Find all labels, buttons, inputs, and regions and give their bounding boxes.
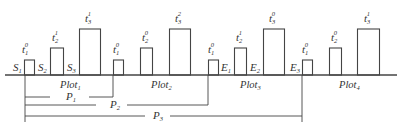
state-label: S2 xyxy=(38,61,48,74)
plot-label: Plot4 xyxy=(338,79,361,91)
task-bar-tall xyxy=(358,29,380,75)
task-label: t21 xyxy=(236,29,243,44)
task-bar-small xyxy=(209,60,219,75)
task-bar-small xyxy=(303,60,313,75)
task-label: t20 xyxy=(331,29,338,44)
period-label: P2 xyxy=(109,98,121,111)
state-label: E2 xyxy=(249,61,261,74)
period-label: P3 xyxy=(152,109,164,122)
task-bar-small xyxy=(25,60,35,75)
plot-label: Plot2 xyxy=(150,79,173,91)
task-label: t30 xyxy=(269,10,276,25)
task-label: t10 xyxy=(208,41,215,56)
state-label: E3 xyxy=(289,61,301,74)
task-bar-medium xyxy=(330,48,342,75)
plot-period-diagram: t10t21t31t10t20t32t10t21t30t10t20t31S1S2… xyxy=(0,0,402,128)
task-label: t10 xyxy=(113,41,120,56)
task-bar-medium xyxy=(141,48,153,75)
task-bar-tall xyxy=(170,29,191,75)
period-label: P1 xyxy=(65,90,76,103)
task-label: t20 xyxy=(142,29,149,44)
task-label: t21 xyxy=(52,29,59,44)
task-label: t31 xyxy=(85,10,92,25)
task-label: t10 xyxy=(302,41,309,56)
timing-diagram: t10t21t31t10t20t32t10t21t30t10t20t31S1S2… xyxy=(0,0,402,128)
task-bar-tall xyxy=(80,29,101,75)
plot-label: Plot3 xyxy=(239,79,262,91)
state-label: E1 xyxy=(220,61,231,74)
task-label: t32 xyxy=(175,10,182,25)
state-label: S3 xyxy=(67,61,77,74)
task-label: t31 xyxy=(364,10,371,25)
task-bar-medium xyxy=(51,48,64,75)
state-label: S1 xyxy=(13,61,22,74)
task-bar-medium xyxy=(235,48,247,75)
task-bar-tall xyxy=(264,29,285,75)
task-bars xyxy=(25,29,380,75)
task-bar-small xyxy=(114,60,124,75)
task-label: t10 xyxy=(22,41,29,56)
